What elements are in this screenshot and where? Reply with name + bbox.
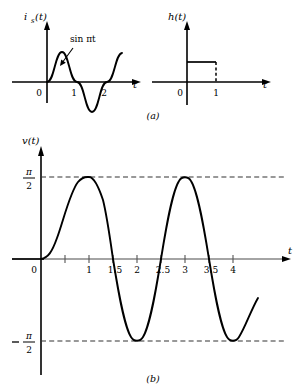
x-axis-arrowhead xyxy=(282,256,291,262)
y-axis-label: v(t) xyxy=(22,135,40,146)
xtick-label-0: 0 xyxy=(36,88,42,98)
x-axis-label: t xyxy=(288,245,293,256)
xtick-label-4: 4 xyxy=(230,265,236,275)
xtick-label-1: 1 xyxy=(71,88,77,98)
xtick-label-1: 1 xyxy=(86,265,92,275)
y-axis-label-i: i xyxy=(24,11,27,22)
xtick-label-3.5: 3.5 xyxy=(204,265,219,275)
x-axis-label: t xyxy=(133,79,138,90)
ytick-numerator-pi: π xyxy=(25,331,33,341)
y-axis-arrowhead xyxy=(44,21,50,30)
plot-impulse-response: h(t) t 0 1 xyxy=(152,11,271,105)
ytick-numerator-pi: π xyxy=(25,167,33,177)
xtick-label-1.5: 1.5 xyxy=(108,265,123,275)
sine-annotation-label: sin πt xyxy=(70,34,96,44)
curve-segment-second-peak xyxy=(161,177,209,259)
x-axis-label: t xyxy=(263,79,268,90)
y-axis-label: h(t) xyxy=(168,11,186,22)
curve-segment-rise xyxy=(41,177,113,259)
xtick-label-3: 3 xyxy=(182,265,188,275)
xtick-label-2: 2 xyxy=(101,88,107,98)
panel-a: sin πt i s (t) t 0 1 2 h(t) t 0 1 ( xyxy=(0,0,307,128)
xtick-label-0: 0 xyxy=(177,88,183,98)
panel-caption-a: (a) xyxy=(146,110,159,121)
xtick-label-2: 2 xyxy=(134,265,140,275)
panel-caption-b: (b) xyxy=(146,373,160,384)
ytick-label-positive-pi-over-2: π 2 xyxy=(23,167,35,191)
ytick-denominator: 2 xyxy=(26,181,32,191)
ytick-label-negative-pi-over-2: π 2 xyxy=(12,331,35,355)
y-axis-arrowhead xyxy=(184,21,190,30)
xtick-label-2.5: 2.5 xyxy=(156,265,171,275)
panel-b: v(t) t π 2 π 2 0 1 1.5 2 2.5 3 3.5 xyxy=(0,130,307,388)
xtick-label-1: 1 xyxy=(213,88,219,98)
y-axis-label-arg: (t) xyxy=(35,11,47,22)
figure-container: sin πt i s (t) t 0 1 2 h(t) t 0 1 ( xyxy=(0,0,307,390)
annotation-arrowhead xyxy=(60,59,66,66)
plot-input-current: sin πt i s (t) t 0 1 2 xyxy=(12,11,141,112)
y-axis-arrowhead xyxy=(38,146,44,156)
xtick-label-0: 0 xyxy=(31,265,37,275)
plot-output-voltage: v(t) t π 2 π 2 0 1 1.5 2 2.5 3 3.5 xyxy=(12,135,293,375)
ytick-denominator: 2 xyxy=(26,345,32,355)
